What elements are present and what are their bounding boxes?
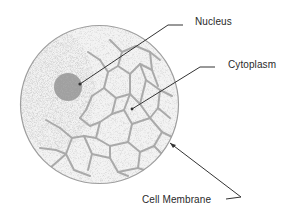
- cytoplasm-label: Cytoplasm: [228, 59, 276, 70]
- cell-illustration: [0, 0, 295, 217]
- nucleus-label: Nucleus: [195, 16, 232, 27]
- cell-membrane-label: Cell Membrane: [142, 194, 211, 205]
- cell-diagram: Nucleus Cytoplasm Cell Membrane: [0, 0, 295, 217]
- cytoplasm-leader-dot: [131, 108, 134, 111]
- nucleus-leader-dot: [78, 82, 81, 85]
- nucleus: [54, 73, 82, 101]
- membrane-leader-line: [170, 143, 241, 199]
- cell-body: [20, 25, 180, 185]
